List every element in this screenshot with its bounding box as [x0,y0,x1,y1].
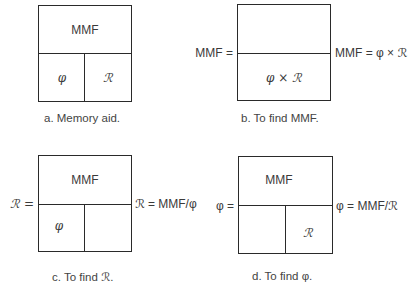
panel-b-box: φ × ℛ [237,4,331,101]
panel-d-left-equation: φ = [216,199,234,213]
panel-b-caption: b. To find MMF. [241,112,319,124]
panel-a-caption: a. Memory aid. [44,112,120,124]
panel-a-flux-symbol: φ [58,71,66,85]
panel-a-horizontal-divider [39,53,131,54]
panel-a-vertical-divider [84,53,85,101]
panel-b-right-equation: MMF = φ × ℛ [335,46,407,60]
panel-a-box: MMF φ ℛ [38,5,132,102]
panel-c-right-equation: ℛ = MMF/φ [135,197,197,211]
panel-d-mmf-label: MMF [265,173,292,187]
panel-d-vertical-divider [285,205,286,253]
panel-b-horizontal-divider [238,53,330,54]
panel-c-horizontal-divider [39,204,131,205]
panel-a-mmf-label: MMF [71,23,98,37]
panel-d-box: MMF ℛ [238,156,333,254]
panel-d-right-equation: φ = MMF/ℛ [336,199,398,213]
panel-c-mmf-label: MMF [71,173,98,187]
panel-a-reluctance-symbol: ℛ [103,71,113,85]
panel-b-left-equation: MMF = [195,46,233,60]
panel-b-product-label: φ × ℛ [266,71,302,85]
panel-c-caption: c. To find ℛ. [52,270,113,284]
panel-c-left-equation: ℛ = [10,197,34,211]
panel-c-flux-symbol: φ [55,219,63,233]
panel-d-reluctance-symbol: ℛ [303,226,313,240]
panel-c-vertical-divider [84,204,85,251]
panel-c-box: MMF φ [38,155,132,252]
panel-d-caption: d. To find φ. [252,270,312,282]
